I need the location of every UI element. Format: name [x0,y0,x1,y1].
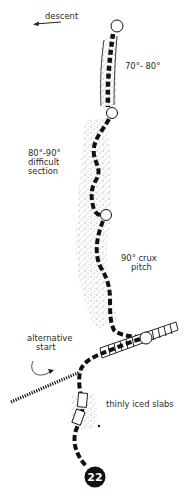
descent-label: descent [45,11,79,21]
slabs-label: thinly iced slabs [106,399,174,409]
descent-indicator: descent [33,11,79,26]
left-arrow-icon [33,22,61,27]
alternative-start-line [11,361,80,402]
pitch-3-label-line2: pitch [131,262,152,272]
route-topo-diagram: descent [0,0,189,504]
pitch-1-label: 70°- 80° [125,61,160,71]
pitch-2-label-line3: section [28,166,58,176]
slab-dot [98,425,100,427]
belay-circle-icon [107,108,118,119]
stipple-ice-areas [71,36,118,430]
alternative-start-label-line2: start [36,342,56,352]
belay-circle-icon [140,332,152,344]
belay-circle-icon [101,210,112,221]
belay-circle-icon [111,20,123,32]
route-number-badge: 22 [85,467,106,488]
alt-start-curved-arrow [32,361,52,375]
route-number: 22 [87,471,102,484]
